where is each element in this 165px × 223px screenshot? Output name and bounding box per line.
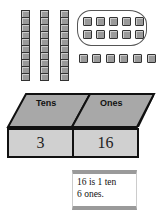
ones-header: Ones [100,98,123,108]
explanation-note: 16 is 1 ten 6 ones. [72,170,137,210]
note-line-2: 6 ones. [77,188,132,200]
ones-value: 16 [72,128,139,158]
tens-value: 3 [7,128,74,158]
note-line-1: 16 is 1 ten [77,176,132,188]
tens-header: Tens [36,98,56,108]
